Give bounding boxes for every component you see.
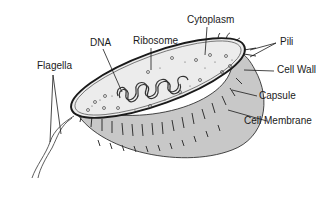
flagella-strands (32, 116, 74, 178)
bacterial-cell-diagram: DNA Ribosome Cytoplasm Pili Flagella Cel… (0, 0, 330, 207)
label-cell-wall: Cell Wall (277, 65, 316, 75)
label-dna: DNA (90, 38, 111, 48)
label-cell-membrane: Cell Membrane (244, 116, 312, 126)
label-cytoplasm: Cytoplasm (187, 15, 234, 25)
label-capsule: Capsule (259, 91, 296, 101)
label-flagella: Flagella (37, 61, 72, 71)
label-pili: Pili (280, 37, 293, 47)
label-ribosome: Ribosome (133, 36, 178, 46)
cell-illustration (0, 0, 330, 207)
